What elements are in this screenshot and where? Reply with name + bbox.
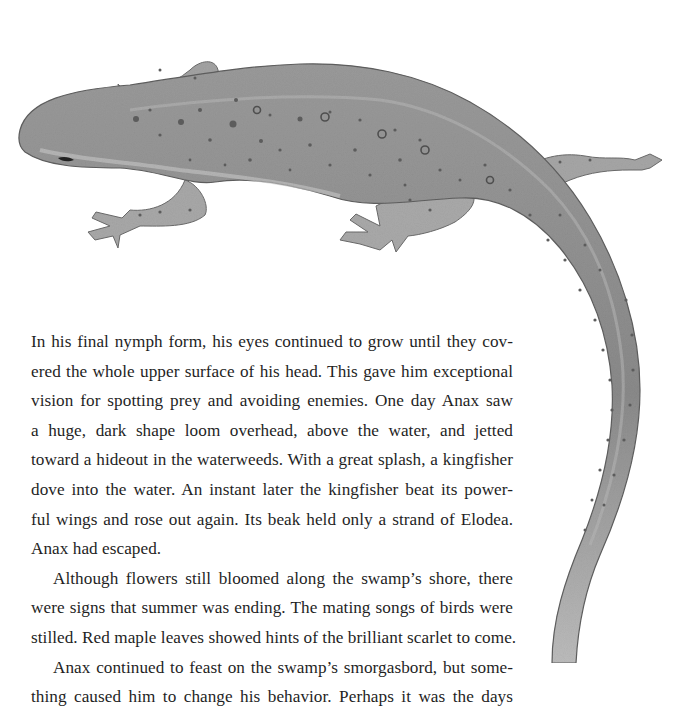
paragraph-1: In his final nymph form, his eyes contin… <box>31 327 513 564</box>
text-line: In his final nymph form, his eyes contin… <box>31 327 513 357</box>
text-line: dove into the water. An instant later th… <box>31 475 513 505</box>
body-text: In his final nymph form, his eyes contin… <box>31 327 513 710</box>
text-line: ered the whole upper surface of his head… <box>31 357 513 387</box>
paragraph-3: Anax continued to feast on the swamp’s s… <box>31 653 513 710</box>
text-line: a huge, dark shape loom overhead, above … <box>31 416 513 446</box>
salamander-ring-spots <box>254 107 494 184</box>
text-line: stilled. Red maple leaves showed hints o… <box>31 623 513 653</box>
text-line: Anax continued to feast on the swamp’s s… <box>31 653 513 683</box>
text-line: were signs that summer was ending. The m… <box>31 593 513 623</box>
text-line: toward a hideout in the waterweeds. With… <box>31 445 513 475</box>
paragraph-2: Although flowers still bloomed along the… <box>31 564 513 653</box>
text-line: Anax had escaped. <box>31 534 513 564</box>
text-line: ful wings and rose out again. Its beak h… <box>31 505 513 535</box>
text-line: vision for spotting prey and avoiding en… <box>31 386 513 416</box>
text-line: thing caused him to change his behavior.… <box>31 682 513 710</box>
text-line: Although flowers still bloomed along the… <box>31 564 513 594</box>
